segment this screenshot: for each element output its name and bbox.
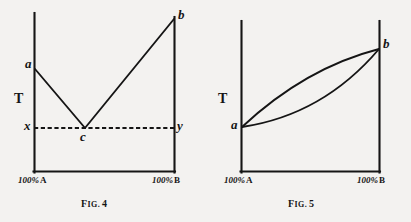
figure-5-y-axis-label: T (218, 92, 227, 106)
figure-5-left-percent: 100% (224, 175, 245, 185)
figure-4: a b c x y T 100%A 100%B FIG.4 (0, 0, 206, 222)
figure-4-right-percent: 100% (152, 175, 173, 185)
figure-5-caption-prefix-rest: IG. (295, 200, 308, 209)
figure-4-plot (0, 0, 206, 222)
figure-4-point-label-y: y (177, 119, 183, 132)
figure-5-right-component: B (379, 175, 385, 185)
figure-5: a b T 100%A 100%B FIG.5 (205, 0, 411, 222)
figure-4-point-label-c: c (80, 130, 86, 143)
figure-5-caption: FIG.5 (288, 198, 314, 209)
figure-4-point-label-x: x (24, 119, 31, 132)
figure-4-x-axis-label-right: 100%B (152, 176, 180, 185)
figure-4-caption: FIG.4 (81, 198, 107, 209)
figure-4-y-axis-label: T (14, 92, 23, 106)
figure-5-point-label-b: b (383, 37, 390, 50)
figure-5-x-axis-label-left: 100%A (224, 176, 253, 185)
figure-4-liquidus-a-c (35, 69, 85, 128)
figure-5-solidus-curve (242, 49, 379, 127)
figure-4-left-percent: 100% (18, 175, 39, 185)
page-canvas: a b c x y T 100%A 100%B FIG.4 (0, 0, 411, 222)
figure-4-point-label-b: b (178, 8, 185, 21)
figure-5-caption-number: 5 (309, 198, 314, 209)
figure-4-x-axis-label-left: 100%A (18, 176, 47, 185)
figure-5-x-axis-label-right: 100%B (357, 176, 385, 185)
figure-5-point-label-a: a (231, 118, 238, 131)
figure-4-liquidus-c-b (85, 19, 174, 128)
figure-5-right-percent: 100% (357, 175, 378, 185)
figure-5-plot (205, 0, 411, 222)
figure-4-point-label-a: a (25, 57, 32, 70)
figure-5-left-component: A (246, 175, 253, 185)
figure-4-right-component: B (174, 175, 180, 185)
figure-4-caption-prefix-rest: IG. (88, 200, 101, 209)
figure-5-liquidus-curve (242, 49, 379, 127)
figure-4-left-component: A (40, 175, 47, 185)
figure-4-caption-number: 4 (102, 198, 107, 209)
